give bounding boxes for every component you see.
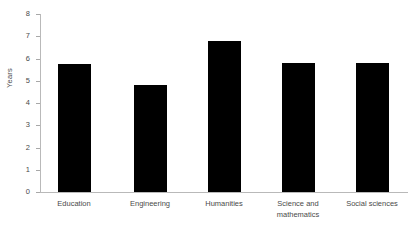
y-axis-title: Years: [5, 68, 14, 88]
bar-chart: Years 8 7 6 5 4 3 2: [0, 0, 417, 236]
y-tick-label: 3: [26, 120, 30, 129]
y-tick-label: 8: [26, 9, 30, 18]
y-tick-label: 5: [26, 76, 30, 85]
y-tick-label: 4: [26, 98, 30, 107]
y-tick-label: 1: [26, 165, 30, 174]
bar-science-and-mathematics[interactable]: [282, 63, 315, 192]
x-axis-line: [40, 192, 408, 193]
y-tick-label: 6: [26, 54, 30, 63]
bar-engineering[interactable]: [134, 85, 167, 192]
bar-humanities[interactable]: [208, 41, 241, 192]
y-tick-label: 0: [26, 187, 30, 196]
y-tick-label: 2: [26, 143, 30, 152]
x-label-social-sciences: Social sciences: [327, 199, 417, 210]
y-tick-label: 7: [26, 31, 30, 40]
y-tick-mark: [36, 192, 40, 193]
bar-social-sciences[interactable]: [356, 63, 389, 192]
bars-layer: [40, 14, 408, 192]
bar-education[interactable]: [58, 64, 91, 192]
